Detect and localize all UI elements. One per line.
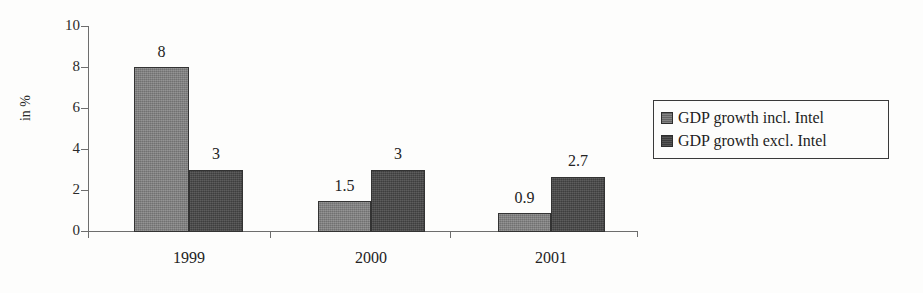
y-axis-tick bbox=[81, 26, 89, 27]
x-axis-tick bbox=[450, 231, 451, 238]
y-axis-line bbox=[88, 26, 89, 231]
y-axis-tick bbox=[81, 190, 89, 191]
y-axis-tick-label: 6 bbox=[46, 100, 80, 115]
y-axis-tick bbox=[81, 108, 89, 109]
bar-value-label-2001-incl: 0.9 bbox=[498, 190, 551, 206]
legend-item-excl-intel[interactable]: GDP growth excl. Intel bbox=[661, 129, 881, 152]
x-axis-tick bbox=[270, 231, 271, 238]
bar-2001-excl-intel[interactable] bbox=[551, 177, 605, 232]
bar-value-label-1999-excl: 3 bbox=[189, 146, 243, 162]
x-axis-category-label-2000: 2000 bbox=[316, 249, 426, 267]
y-axis-tick bbox=[81, 67, 89, 68]
legend-label-excl-intel: GDP growth excl. Intel bbox=[678, 133, 827, 149]
x-axis-tick bbox=[88, 231, 89, 238]
legend-swatch-icon-excl-intel bbox=[661, 135, 673, 147]
chart-screenshot: 10 8 6 4 2 0 in % bbox=[0, 0, 923, 293]
y-axis-tick-label: 4 bbox=[46, 141, 80, 156]
bar-2000-excl-intel[interactable] bbox=[371, 170, 425, 232]
x-axis-category-label-2001: 2001 bbox=[496, 249, 606, 267]
chart-legend: GDP growth incl. Intel GDP growth excl. … bbox=[653, 100, 889, 159]
x-axis-end-cap bbox=[637, 231, 638, 237]
y-axis-tick-label: 2 bbox=[46, 182, 80, 197]
y-axis-tick bbox=[81, 149, 89, 150]
legend-swatch-icon-incl-intel bbox=[661, 112, 673, 124]
x-axis-category-label-1999: 1999 bbox=[134, 249, 244, 267]
bar-1999-excl-intel[interactable] bbox=[189, 170, 243, 232]
y-axis-tick-label: 8 bbox=[46, 59, 80, 74]
bar-value-label-2001-excl: 2.7 bbox=[551, 153, 605, 169]
bar-chart: 10 8 6 4 2 0 in % bbox=[0, 0, 923, 293]
bar-2000-incl-intel[interactable] bbox=[318, 201, 371, 232]
bar-value-label-2000-excl: 3 bbox=[371, 146, 425, 162]
y-axis-tick-label: 0 bbox=[46, 223, 80, 238]
legend-label-incl-intel: GDP growth incl. Intel bbox=[678, 110, 824, 126]
bar-value-label-2000-incl: 1.5 bbox=[318, 178, 371, 194]
y-axis-tick-label: 10 bbox=[46, 18, 80, 33]
bar-value-label-1999-incl: 8 bbox=[134, 44, 189, 60]
legend-item-incl-intel[interactable]: GDP growth incl. Intel bbox=[661, 106, 881, 129]
bar-2001-incl-intel[interactable] bbox=[498, 213, 551, 232]
y-axis-title: in % bbox=[18, 78, 34, 138]
bar-1999-incl-intel[interactable] bbox=[134, 67, 189, 232]
